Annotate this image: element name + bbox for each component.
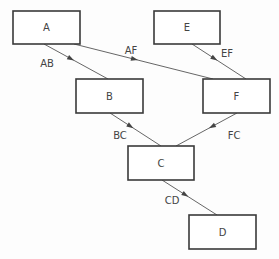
node-b: B xyxy=(76,79,143,113)
node-label: E xyxy=(184,22,190,33)
node-d: D xyxy=(189,215,256,249)
edge-ef: EF xyxy=(192,44,246,79)
arrowhead-icon xyxy=(181,191,188,197)
edge-line xyxy=(74,44,213,79)
arrowhead-icon xyxy=(209,123,216,128)
node-f: F xyxy=(203,79,270,113)
node-a: A xyxy=(13,11,80,44)
node-label: D xyxy=(219,227,227,238)
arrowhead-icon xyxy=(210,55,217,61)
edge-ab: AB xyxy=(40,44,108,79)
node-label: F xyxy=(234,91,240,102)
arrowhead-icon xyxy=(67,55,74,60)
edge-label: AF xyxy=(125,45,138,56)
edge-label: AB xyxy=(40,58,54,69)
edge-af: AF xyxy=(74,44,213,79)
edges-layer: ABAFEFBCFCCD xyxy=(40,44,246,215)
edge-label: BC xyxy=(113,130,127,141)
arrowhead-icon xyxy=(131,56,138,61)
arrowhead-icon xyxy=(126,122,133,128)
edge-fc: FC xyxy=(176,113,240,146)
node-c: C xyxy=(128,146,194,180)
edge-label: EF xyxy=(221,48,233,59)
edge-bc: BC xyxy=(110,113,161,146)
edge-line xyxy=(192,44,246,79)
node-e: E xyxy=(154,11,220,44)
edge-label: FC xyxy=(228,130,241,141)
node-label: A xyxy=(43,22,50,33)
edge-label: CD xyxy=(165,195,180,206)
dependency-diagram: ABAFEFBCFCCD AEBFCD xyxy=(0,0,279,259)
edge-cd: CD xyxy=(162,180,217,215)
node-label: C xyxy=(158,158,165,169)
node-label: B xyxy=(106,91,113,102)
